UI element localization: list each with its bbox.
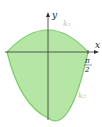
curve-label-k2: k₂ (78, 91, 86, 100)
y-axis-label: y (51, 10, 58, 20)
y-axis-arrow-icon (46, 12, 50, 17)
x-axis-arrow-icon (94, 50, 99, 54)
region-diagram: y x π 2 k₁ k₂ (0, 0, 102, 127)
x-axis-label: x (95, 40, 100, 50)
curve-label-k1: k₁ (63, 19, 71, 28)
tick-label-numerator: π (84, 57, 90, 65)
tick-label-denominator: 2 (84, 66, 90, 74)
shaded-region (7, 30, 88, 121)
